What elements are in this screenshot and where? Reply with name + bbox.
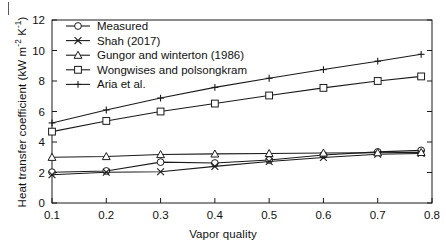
- legend-entry: Aria et al.: [66, 78, 146, 90]
- y-tick-label: 0: [39, 197, 45, 209]
- y-axis-title-sup2: -1: [14, 21, 23, 29]
- legend-label: Shah (2017): [97, 35, 160, 47]
- x-tick-label: 0.4: [207, 209, 224, 221]
- marker-circle: [157, 159, 164, 166]
- legend-entry: Shah (2017): [66, 35, 160, 47]
- y-axis-title-mid: K: [16, 28, 28, 39]
- legend-label: Gungor and winterton (1986): [97, 49, 244, 61]
- x-axis-title: Vapor quality: [0, 228, 446, 240]
- marker-circle: [211, 160, 218, 167]
- y-axis-title-main: Heat transfer coefficient (kW m: [16, 47, 28, 208]
- legend-label: Wongwises and polsongkram: [97, 64, 247, 76]
- marker-square: [266, 92, 273, 99]
- marker-square: [157, 108, 164, 115]
- figure-panel: 0.10.20.30.40.50.60.70.8024681012Measure…: [0, 0, 446, 252]
- x-tick-label: 0.8: [424, 209, 440, 221]
- x-tick-label: 0.1: [44, 209, 60, 221]
- y-tick-label: 12: [32, 14, 45, 26]
- marker-circle: [75, 23, 82, 30]
- y-axis-title-tail: ): [16, 17, 28, 21]
- y-axis-title-wrapper: Heat transfer coefficient (kW m-2 K-1): [12, 2, 28, 222]
- marker-square: [103, 118, 110, 125]
- marker-circle: [266, 157, 273, 164]
- legend-entry: Measured: [66, 20, 148, 32]
- y-tick-label: 4: [39, 136, 46, 148]
- x-tick-label: 0.3: [153, 209, 169, 221]
- y-axis-title: Heat transfer coefficient (kW m-2 K-1): [16, 17, 28, 208]
- x-tick-label: 0.5: [261, 209, 277, 221]
- marker-square: [320, 84, 327, 91]
- legend-entry: Gungor and winterton (1986): [66, 49, 244, 61]
- legend-entry: Wongwises and polsongkram: [66, 64, 247, 76]
- marker-square: [374, 78, 381, 85]
- legend-label: Measured: [97, 20, 148, 32]
- y-axis-title-sup1: -2: [14, 39, 23, 47]
- marker-circle: [103, 168, 110, 175]
- y-tick-label: 6: [39, 106, 45, 118]
- y-tick-label: 2: [39, 167, 45, 179]
- marker-square: [49, 128, 56, 135]
- marker-square: [75, 66, 82, 73]
- y-tick-label: 8: [39, 75, 45, 87]
- x-tick-label: 0.2: [98, 209, 114, 221]
- x-tick-label: 0.7: [370, 209, 386, 221]
- chart-canvas: 0.10.20.30.40.50.60.70.8024681012Measure…: [0, 0, 446, 252]
- y-tick-label: 10: [32, 45, 45, 57]
- marker-square: [418, 73, 425, 80]
- legend-label: Aria et al.: [97, 78, 146, 90]
- legend: MeasuredShah (2017)Gungor and winterton …: [66, 20, 247, 90]
- marker-square: [211, 100, 218, 107]
- x-tick-label: 0.6: [315, 209, 331, 221]
